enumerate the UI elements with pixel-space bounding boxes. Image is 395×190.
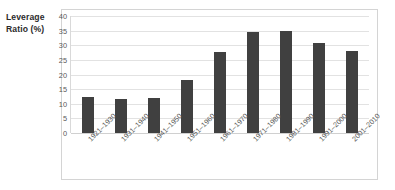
x-slot: 1981–1990 [270, 135, 303, 179]
y-tick-label: 30 [59, 41, 67, 50]
x-slot: 1931–1940 [104, 135, 137, 179]
bar[interactable] [82, 97, 94, 133]
bar-slot [71, 16, 104, 133]
x-slot: 1961–1970 [203, 135, 236, 179]
x-slot: 1941–1950 [137, 135, 170, 179]
y-axis-title-line-1: Leverage [6, 11, 58, 23]
y-tick-label: 0 [63, 129, 67, 138]
x-slot: 1951–1960 [170, 135, 203, 179]
bar[interactable] [313, 43, 325, 133]
y-axis-title-line-2: Ratio (%) [6, 23, 58, 35]
x-slot: 1921–1930 [71, 135, 104, 179]
y-tick-label: 10 [59, 99, 67, 108]
x-axis-tick-labels: 1921–19301931–19401941–19501951–19601961… [71, 135, 369, 179]
x-slot: 1991–2000 [303, 135, 336, 179]
bar[interactable] [214, 52, 226, 133]
x-slot: 2001–2010 [336, 135, 369, 179]
y-axis-title: Leverage Ratio (%) [6, 11, 58, 35]
y-tick-label: 35 [59, 26, 67, 35]
x-slot: 1971–1980 [237, 135, 270, 179]
bar[interactable] [181, 80, 193, 133]
bar-chart-figure: Leverage Ratio (%) 4035302520151050 1921… [0, 0, 395, 190]
y-tick-label: 25 [59, 55, 67, 64]
y-tick-label: 20 [59, 70, 67, 79]
bar[interactable] [148, 98, 160, 133]
y-tick-label: 40 [59, 12, 67, 21]
y-tick-label: 15 [59, 85, 67, 94]
y-tick-label: 5 [63, 114, 67, 123]
bar[interactable] [346, 51, 358, 133]
